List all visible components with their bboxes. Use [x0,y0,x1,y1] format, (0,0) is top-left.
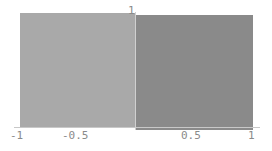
x-tick-label: 0.5 [181,130,201,142]
x-tick-label: -0.5 [62,130,89,142]
y-tick-label: 1 [128,5,135,17]
bar-positive [135,15,253,130]
y-axis [135,12,136,130]
x-axis [14,127,260,128]
bar-negative [20,13,135,127]
x-tick-label: -1 [10,130,23,142]
x-tick-label: 1 [248,130,255,142]
